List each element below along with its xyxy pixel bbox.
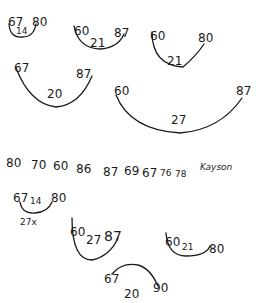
bottom-2-middle: 27 xyxy=(86,234,101,246)
bottom-3-middle: 21 xyxy=(182,243,193,252)
bottom-1-middle: 14 xyxy=(30,197,41,206)
group-1-right: 80 xyxy=(32,16,47,28)
bottom-4-left: 67 xyxy=(104,273,119,285)
group-5-right: 87 xyxy=(236,85,251,97)
group-4-left: 67 xyxy=(14,62,29,74)
group-2-right: 87 xyxy=(114,27,129,39)
list-number-7: 67 xyxy=(142,167,157,179)
list-number-4: 86 xyxy=(76,163,91,175)
list-number-9: 78 xyxy=(175,170,186,179)
list-number-5: 87 xyxy=(103,166,118,178)
bottom-3-left: 60 xyxy=(165,236,180,248)
group-4-middle: 20 xyxy=(47,88,62,100)
bottom-3-right: 80 xyxy=(209,243,224,255)
bottom-2-right: 87 xyxy=(104,229,122,243)
group-1-middle: 14 xyxy=(16,27,27,36)
group-2-left: 60 xyxy=(74,25,89,37)
list-number-6: 69 xyxy=(124,165,139,177)
name-label: Kayson xyxy=(200,163,232,172)
group-5-middle: 27 xyxy=(171,114,186,126)
list-number-1: 80 xyxy=(6,157,21,169)
group-3-middle: 21 xyxy=(167,55,182,67)
bottom-4-middle: 20 xyxy=(124,288,139,300)
group-4-right: 87 xyxy=(76,68,91,80)
group-5-left: 60 xyxy=(114,85,129,97)
list-number-3: 60 xyxy=(53,160,68,172)
hand-drawn-arcs xyxy=(0,0,259,303)
list-number-8: 76 xyxy=(160,169,171,178)
group-3-right: 80 xyxy=(198,32,213,44)
group-2-middle: 21 xyxy=(90,37,105,49)
bottom-4-right: 90 xyxy=(153,282,168,294)
group-3-left: 60 xyxy=(150,30,165,42)
bottom-1-left: 67 xyxy=(13,192,28,204)
bottom-1-right: 80 xyxy=(51,192,66,204)
list-number-2: 70 xyxy=(31,159,46,171)
bottom-1-note: 27x xyxy=(20,218,37,227)
bottom-2-left: 60 xyxy=(70,226,85,238)
